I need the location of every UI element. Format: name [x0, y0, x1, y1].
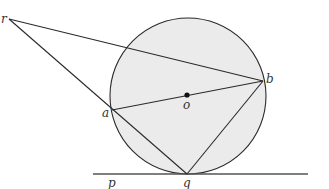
label-q: q — [183, 176, 191, 189]
label-r: r — [1, 12, 8, 26]
label-b: b — [266, 72, 274, 86]
label-o: o — [183, 98, 190, 112]
center-point-o — [184, 92, 189, 97]
label-p: p — [108, 176, 116, 189]
label-a: a — [102, 106, 109, 120]
geometry-diagram: r a b o p q — [0, 0, 329, 189]
